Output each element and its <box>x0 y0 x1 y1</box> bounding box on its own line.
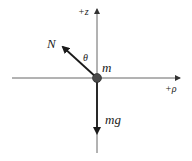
normal-force-label: N <box>46 36 57 51</box>
mass-point <box>93 74 102 83</box>
angle-theta-label: θ <box>83 52 88 63</box>
z-axis-label: +z <box>78 6 89 17</box>
mass-label: m <box>102 60 111 75</box>
rho-axis-label: +ρ <box>165 83 177 94</box>
gravity-force-label: mg <box>105 112 121 127</box>
normal-force-arrow <box>63 47 97 78</box>
free-body-diagram: +z +ρ N θ m mg <box>0 0 192 161</box>
